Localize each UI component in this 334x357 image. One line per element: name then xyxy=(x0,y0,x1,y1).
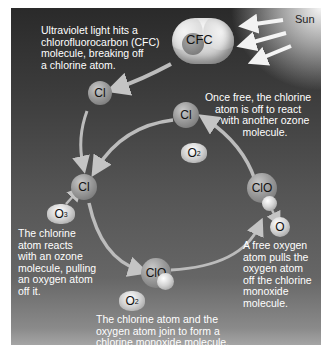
caption-line: Ultraviolet light hits a xyxy=(41,25,159,37)
caption-line: The chlorine xyxy=(18,228,96,240)
uv-rays xyxy=(246,20,291,60)
caption-line: molecule. xyxy=(200,127,316,139)
caption-line: oxygen atom xyxy=(243,263,312,275)
chlorine-atom-reacting: Cl xyxy=(71,174,97,200)
o2-symbol: O xyxy=(125,294,134,308)
caption-uv-breaks-cfc: Ultraviolet light hits a chlorofluorocar… xyxy=(41,25,159,71)
diagram-panel: Ultraviolet light hits a chlorofluorocar… xyxy=(11,8,321,345)
caption-line: A free oxygen xyxy=(243,240,312,252)
caption-line: with another ozone xyxy=(200,115,316,127)
caption-line: The chlorine atom and the xyxy=(96,314,229,326)
caption-line: molecule. xyxy=(243,298,312,310)
cfc-molecule: CFC xyxy=(172,18,234,64)
chlorine-atom-freed: Cl xyxy=(88,81,112,105)
chlorine-atom-regenerated: Cl xyxy=(173,102,199,128)
clo-oxygen-part-bottom xyxy=(157,273,174,290)
o2-subscript: 2 xyxy=(135,298,139,305)
o3-symbol: O xyxy=(54,207,63,221)
free-oxygen-atom: O xyxy=(270,217,290,237)
ozone-molecule-o3: O3 xyxy=(47,204,75,224)
caption-line: with an ozone xyxy=(18,251,96,263)
caption-line: a chlorine atom. xyxy=(41,60,159,72)
caption-line: Once free, the chlorine xyxy=(200,92,316,104)
sun-label: Sun xyxy=(295,13,315,25)
caption-chlorine-monoxide-forms: The chlorine atom and the oxygen atom jo… xyxy=(96,314,229,345)
clo-label: ClO xyxy=(252,181,273,195)
oxygen-molecule-o2-top: O2 xyxy=(181,143,207,163)
o2-subscript: 2 xyxy=(197,150,201,157)
caption-line: monoxide xyxy=(243,286,312,298)
caption-line: chlorine monoxide molecule. xyxy=(96,337,229,345)
oxygen-molecule-o2-bottom: O2 xyxy=(119,291,145,311)
caption-chlorine-free-again: Once free, the chlorine atom is off to r… xyxy=(200,92,316,138)
clo-oxygen-part-right xyxy=(262,196,277,211)
caption-chlorine-reacts-ozone: The chlorine atom reacts with an ozone m… xyxy=(18,228,96,297)
caption-line: molecule, breaking off xyxy=(41,48,159,60)
caption-line: an oxygen atom xyxy=(18,274,96,286)
o3-subscript: 3 xyxy=(64,211,68,218)
o2-symbol: O xyxy=(187,146,196,160)
caption-line: off it. xyxy=(18,286,96,298)
cfc-label: CFC xyxy=(186,32,213,47)
caption-free-oxygen-pulls: A free oxygen atom pulls the oxygen atom… xyxy=(243,240,312,309)
